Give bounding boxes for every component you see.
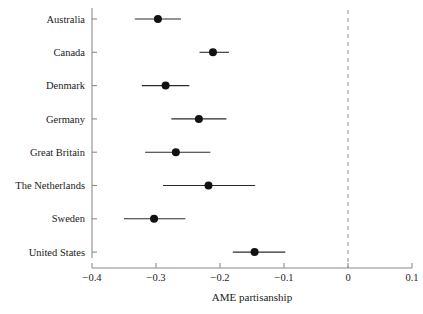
data-point (150, 215, 158, 223)
x-axis-tick-labels: −0.4−0.3−0.2−0.100.1 (82, 272, 418, 283)
data-point (204, 182, 212, 190)
category-label: The Netherlands (15, 180, 85, 191)
category-label: Sweden (52, 213, 86, 224)
data-points (150, 15, 258, 256)
category-label: Australia (47, 14, 86, 25)
category-label: Denmark (46, 80, 86, 91)
x-tick-label: −0.2 (210, 272, 229, 283)
data-point (162, 82, 170, 90)
plot-canvas: AustraliaCanadaDenmarkGermanyGreat Brita… (0, 0, 423, 314)
x-tick-label: −0.1 (274, 272, 293, 283)
error-bars (124, 19, 285, 252)
ame-partisanship-coefficient-plot: AustraliaCanadaDenmarkGermanyGreat Brita… (0, 0, 423, 314)
data-point (172, 148, 180, 156)
x-tick-label: 0.1 (405, 272, 418, 283)
x-axis-ticks (92, 263, 412, 268)
x-tick-label: 0 (345, 272, 350, 283)
data-point (195, 115, 203, 123)
category-label: United States (29, 247, 85, 258)
data-point (154, 15, 162, 23)
category-axis-ticks (92, 19, 97, 252)
category-axis-labels: AustraliaCanadaDenmarkGermanyGreat Brita… (15, 14, 85, 258)
x-tick-label: −0.3 (146, 272, 165, 283)
data-point (209, 48, 217, 56)
category-label: Great Britain (30, 147, 86, 158)
category-label: Germany (46, 114, 86, 125)
data-point (251, 248, 259, 256)
x-axis-title: AME partisanship (212, 291, 293, 303)
category-label: Canada (54, 47, 86, 58)
x-tick-label: −0.4 (82, 272, 102, 283)
